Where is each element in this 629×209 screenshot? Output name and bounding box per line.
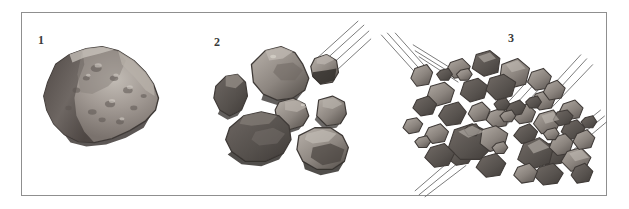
panel-3-artwork <box>372 13 608 195</box>
panel-2-artwork <box>207 13 372 195</box>
fragment-a <box>214 74 248 120</box>
asteroid-body-large <box>44 47 159 147</box>
fragment-e <box>315 96 347 130</box>
fragment-g <box>297 128 348 175</box>
panel-1-artwork <box>22 13 207 195</box>
fragment-c-moving <box>311 55 339 85</box>
panel-2-partially-fragmented: 2 <box>207 13 372 195</box>
figure-border-frame: 1 <box>21 12 607 196</box>
fragment-swarm <box>403 51 597 186</box>
panel-1-intact-asteroid: 1 <box>22 13 207 195</box>
asteroid-fragmentation-figure: 1 <box>0 0 629 209</box>
fragment-f <box>226 112 291 166</box>
fragment-b <box>251 47 308 105</box>
panel-3-fragmented-swarm: 3 <box>372 13 608 195</box>
